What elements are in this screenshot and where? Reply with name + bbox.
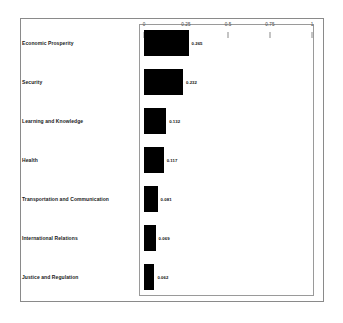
bar-5[interactable] [144, 225, 156, 251]
bar-value-label-1: 0.232 [186, 80, 197, 85]
y-axis-category-labels: Economic ProsperitySecurityLearning and … [20, 24, 139, 296]
bar-value-label-6: 0.062 [157, 274, 168, 279]
bar-2[interactable] [144, 108, 166, 134]
bar-value-label-5: 0.069 [159, 235, 170, 240]
bar-4[interactable] [144, 186, 158, 212]
bar-row: 0.062 [139, 257, 314, 296]
category-label-2: Learning and Knowledge [22, 102, 83, 141]
bar-row: 0.232 [139, 63, 314, 102]
bar-3[interactable] [144, 147, 164, 173]
category-label-6: Justice and Regulation [22, 257, 79, 296]
bar-row: 0.117 [139, 141, 314, 180]
bar-row: 0.081 [139, 179, 314, 218]
bar-0[interactable] [144, 30, 189, 56]
chart-figure: 00.250.50.751 Economic ProsperitySecurit… [0, 0, 343, 323]
bar-row: 0.132 [139, 102, 314, 141]
bar-value-label-3: 0.117 [167, 157, 178, 162]
bar-1[interactable] [144, 69, 183, 95]
bars-container: 0.2650.2320.1320.1170.0810.0690.062 [139, 24, 314, 296]
category-label-4: Transportation and Communication [22, 179, 109, 218]
bar-value-label-4: 0.081 [161, 196, 172, 201]
category-label-1: Security [22, 63, 42, 102]
bar-6[interactable] [144, 264, 154, 290]
category-label-5: International Relations [22, 218, 78, 257]
bar-row: 0.265 [139, 24, 314, 63]
category-label-3: Health [22, 141, 38, 180]
bar-value-label-2: 0.132 [169, 119, 180, 124]
category-label-0: Economic Prosperity [22, 24, 74, 63]
bar-row: 0.069 [139, 218, 314, 257]
bar-value-label-0: 0.265 [192, 41, 203, 46]
